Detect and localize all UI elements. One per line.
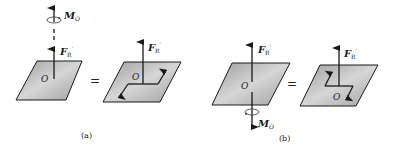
panel-a: MO FR′ O = FR′ O (a): [16, 8, 181, 140]
panel-b: FR′ O MO = FR′ O (b): [212, 43, 378, 143]
force-label-b-right: FR′: [343, 47, 358, 60]
equals-sign-b: =: [287, 77, 297, 91]
origin-label-b-right: O: [333, 92, 341, 102]
statics-diagram: MO FR′ O = FR′ O (a) FR′ O MO = FR′: [0, 0, 394, 153]
force-label-a: FR′: [59, 45, 74, 58]
force-label-b: FR′: [257, 43, 272, 56]
caption-b: (b): [279, 134, 290, 143]
force-label-a-right: FR′: [147, 41, 162, 54]
caption-a: (a): [81, 131, 92, 140]
equals-sign-a: =: [90, 74, 100, 88]
origin-label-b-left: O: [241, 81, 249, 91]
moment-label-b: MO: [257, 118, 274, 130]
plate-a-right: [103, 62, 181, 102]
plate-a-left: [16, 61, 82, 100]
plate-b-left: [212, 63, 290, 105]
origin-label-a-left: O: [41, 74, 49, 84]
moment-label-a: MO: [63, 10, 80, 22]
origin-label-a-right: O: [132, 72, 140, 82]
